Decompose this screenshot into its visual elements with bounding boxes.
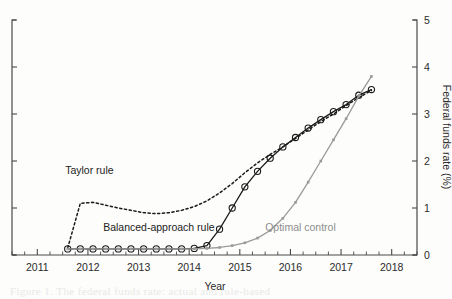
x-tick-label: 2011 — [26, 261, 49, 273]
x-tick-label: 2013 — [127, 261, 151, 273]
data-point-marker — [206, 247, 209, 250]
series-label-balanced-approach-rule: Balanced-approach rule — [103, 221, 215, 233]
x-tick-label: 2018 — [380, 261, 404, 273]
data-point-marker — [193, 248, 196, 251]
data-point-marker — [155, 248, 158, 251]
figure-container: 012345 20112012201320142015201620172018 … — [0, 0, 452, 299]
data-point-marker — [66, 248, 69, 251]
data-point-marker — [117, 248, 120, 251]
y-tick-label: 4 — [424, 61, 430, 73]
data-point-marker — [370, 75, 373, 78]
x-tick-label: 2016 — [279, 261, 303, 273]
x-tick-label: 2015 — [228, 261, 252, 273]
y-axis-title: Federal funds rate (%) — [441, 85, 452, 189]
data-point-marker — [168, 248, 171, 251]
y-tick-label: 5 — [424, 14, 430, 26]
x-axis-tick-labels: 20112012201320142015201620172018 — [26, 261, 404, 273]
data-point-marker — [307, 181, 310, 184]
data-point-marker — [357, 95, 360, 98]
data-point-marker — [256, 237, 259, 240]
data-point-marker — [244, 241, 247, 244]
series-annotations: Taylor ruleBalanced-approach ruleOptimal… — [65, 164, 336, 232]
data-point-marker — [92, 248, 95, 251]
data-point-marker — [294, 201, 297, 204]
right-axis-line — [413, 20, 417, 255]
y-tick-label: 0 — [424, 249, 430, 261]
series-label-optimal-control: Optimal control — [265, 221, 336, 233]
y-axis-tick-labels: 012345 — [424, 14, 430, 261]
data-point-marker — [282, 217, 285, 220]
data-point-marker — [218, 246, 221, 249]
data-point-marker — [180, 248, 183, 251]
data-point-marker — [320, 160, 323, 163]
data-point-marker — [231, 244, 234, 247]
x-tick-label: 2017 — [329, 261, 353, 273]
left-axis-line — [12, 20, 16, 255]
data-point-marker — [79, 248, 82, 251]
y-tick-label: 2 — [424, 155, 430, 167]
data-point-marker — [104, 248, 107, 251]
data-point-marker — [130, 248, 133, 251]
federal-funds-rate-chart: 012345 20112012201320142015201620172018 … — [0, 0, 452, 299]
data-point-marker — [332, 139, 335, 142]
scan-bleed-bottom: Figure 1. The federal funds rate: actual… — [10, 285, 270, 297]
series-label-taylor-rule: Taylor rule — [65, 164, 114, 176]
x-tick-label: 2012 — [76, 261, 100, 273]
data-point-marker — [345, 117, 348, 120]
x-axis-ticks — [12, 249, 417, 255]
y-tick-label: 1 — [424, 202, 430, 214]
x-tick-label: 2014 — [178, 261, 202, 273]
y-tick-label: 3 — [424, 108, 430, 120]
data-point-marker — [142, 248, 145, 251]
